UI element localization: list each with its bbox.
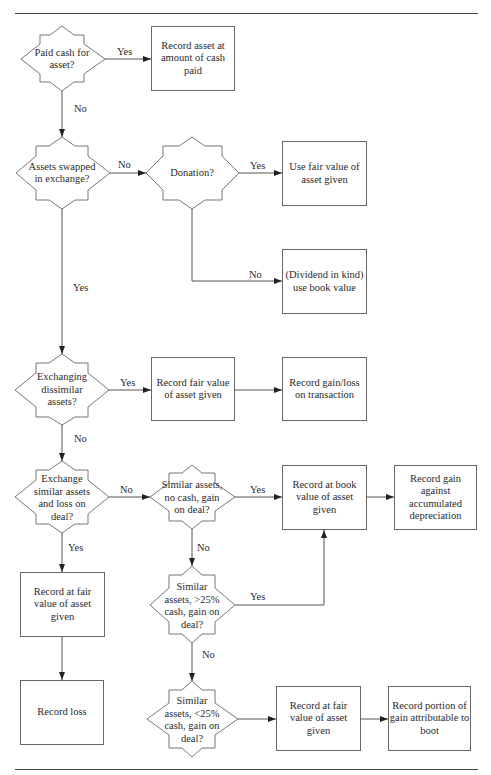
process-gain-boot: Record portion of gain attributable to b… xyxy=(388,686,471,751)
edge-label-no-cash-yes: Yes xyxy=(250,484,265,496)
process-fair-value-given-1: Use fair value of asset given xyxy=(282,141,367,206)
decision-donation: Donation? xyxy=(160,156,224,190)
process-cash-paid: Record asset at amount of cash paid xyxy=(151,26,235,91)
decision-gt25: Similar assets, >25% cash, gain on deal? xyxy=(164,570,220,642)
decision-dissimilar: Exchanging dissimilar assets? xyxy=(32,365,92,415)
edge-label-similar-loss-no: No xyxy=(120,484,133,496)
decision-lt25: Similar assets, <25% cash, gain on deal? xyxy=(164,684,220,756)
edge-label-swapped-no: No xyxy=(118,159,131,171)
edge-label-gt25-no: No xyxy=(202,649,215,661)
process-fair-value-given-4: Record at fair value of asset given xyxy=(276,686,361,751)
process-gain-loss: Record gain/loss on transaction xyxy=(282,357,367,421)
edge-label-donation-yes: Yes xyxy=(250,160,265,172)
decision-no-cash: Similar assets, no cash, gain on deal? xyxy=(160,469,224,527)
process-record-loss: Record loss xyxy=(20,680,104,745)
process-accumulated-depreciation: Record gain against accumulated deprecia… xyxy=(394,465,477,530)
edge-label-paid-cash-no: No xyxy=(74,103,87,115)
edge-label-dissimilar-no: No xyxy=(74,433,87,445)
decision-paid-cash: Paid cash for asset? xyxy=(34,44,90,74)
decision-similar-loss: Exchange similar assets and loss on deal… xyxy=(26,468,98,528)
process-book-value: Record at book value of asset given xyxy=(282,465,367,530)
process-fair-value-given-3: Record at fair value of asset given xyxy=(20,572,105,637)
edge-label-no-cash-no: No xyxy=(197,542,210,554)
process-dividend-in-kind: (Dividend in kind) use book value xyxy=(282,249,367,314)
edge-label-gt25-yes: Yes xyxy=(250,591,265,603)
edge-label-dissimilar-yes: Yes xyxy=(120,377,135,389)
edge-label-donation-no: No xyxy=(249,269,262,281)
edge-label-paid-cash-yes: Yes xyxy=(117,46,132,58)
process-fair-value-given-2: Record fair value of asset given xyxy=(151,357,235,421)
edge-label-similar-loss-yes: Yes xyxy=(68,542,83,554)
decision-assets-swapped: Assets swapped in exchange? xyxy=(28,156,96,190)
edge-label-swapped-yes: Yes xyxy=(73,282,88,294)
